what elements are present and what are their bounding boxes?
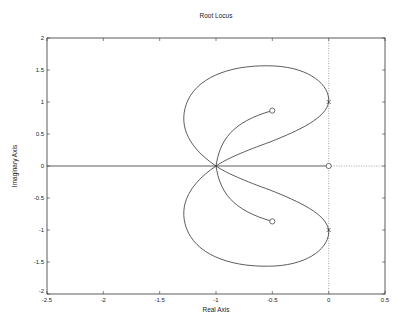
y-tick-label: 0 [41, 163, 45, 169]
y-tick-label: 1.5 [36, 67, 45, 73]
y-tick-label: -1.5 [34, 259, 45, 265]
x-tick-label: 0 [327, 297, 331, 303]
y-axis-title: Imaginary Axis [11, 144, 19, 187]
x-axis-title: Real Axis [202, 306, 230, 313]
y-tick-labels: 2 1.5 1 0.5 0 -0.5 -1 -1.5 -2 [34, 35, 45, 294]
y-tick-label: 0.5 [36, 131, 45, 137]
x-tick-labels: -2.5 -2 -1.5 -1 -0.5 0 0.5 [42, 297, 390, 303]
y-tick-label: 1 [41, 99, 45, 105]
zero-marker-lower [270, 219, 275, 224]
x-tick-label: 0.5 [381, 297, 390, 303]
x-tick-label: -2.5 [42, 297, 53, 303]
x-tick-label: -1 [213, 297, 219, 303]
chart-title: Root Locus [200, 12, 234, 19]
x-tick-label: -1.5 [155, 297, 166, 303]
zero-marker-upper [270, 108, 275, 113]
y-tick-label: -0.5 [34, 195, 45, 201]
zero-marker-origin [326, 163, 331, 168]
y-tick-label: -1 [39, 227, 45, 233]
y-tick-label: -2 [39, 288, 45, 294]
root-locus-chart: Root Locus -2.5 -2 -1.5 -1 -0.5 0 0.5 2 … [0, 0, 406, 327]
x-tick-label: -2 [101, 297, 107, 303]
x-tick-label: -0.5 [267, 297, 278, 303]
y-tick-label: 2 [41, 35, 45, 41]
